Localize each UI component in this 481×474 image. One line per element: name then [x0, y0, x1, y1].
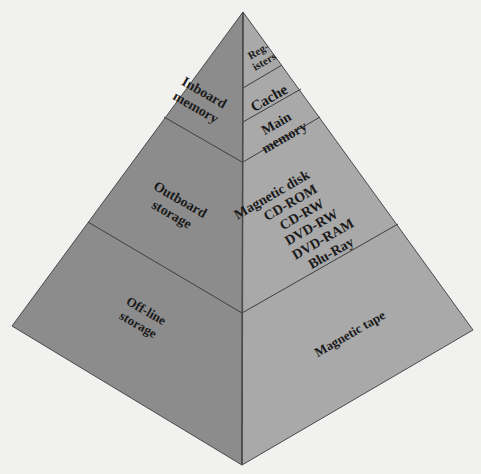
pyramid-center-edge	[242, 12, 243, 465]
pyramid-right-face	[242, 12, 473, 465]
pyramid-left-face	[12, 12, 243, 465]
memory-hierarchy-pyramid: Inboard memory Outboard storage Off-line…	[0, 0, 481, 474]
